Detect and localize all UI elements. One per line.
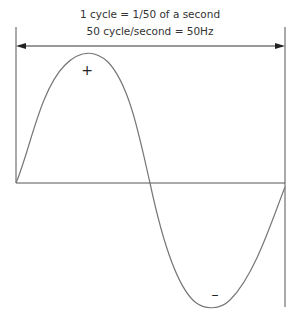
sine-wave-curve [16, 53, 285, 307]
arrow-left-head-icon [16, 43, 26, 49]
positive-half-label: + [81, 62, 93, 78]
cycle-caption: 1 cycle = 1/50 of a second [80, 8, 220, 20]
arrow-right-head-icon [275, 43, 285, 49]
frequency-caption: 50 cycle/second = 50Hz [86, 25, 214, 37]
negative-half-label: – [212, 286, 219, 302]
sine-wave-diagram: 1 cycle = 1/50 of a second 50 cycle/seco… [0, 0, 301, 322]
